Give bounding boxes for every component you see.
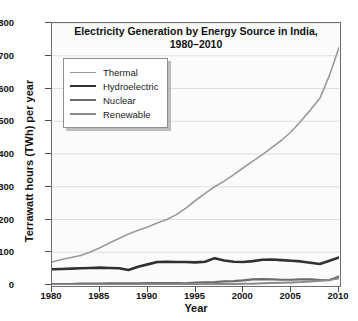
y-tick-label: 200 <box>0 213 14 224</box>
y-tick-mark <box>45 186 51 187</box>
y-tick-label: 500 <box>0 115 14 126</box>
x-tick-mark <box>290 287 291 292</box>
y-axis-label: Terrawatt hours (TWh) per year <box>23 36 35 286</box>
x-tick-mark <box>195 287 196 292</box>
y-tick-label: 400 <box>0 148 14 159</box>
legend-label: Thermal <box>103 67 138 78</box>
y-tick-mark <box>45 219 51 220</box>
y-tick-mark <box>45 284 51 285</box>
legend-item-hydroelectric: Hydroelectric <box>70 79 158 93</box>
legend-swatch-icon <box>70 113 96 115</box>
y-tick-mark <box>45 120 51 121</box>
legend-label: Nuclear <box>103 95 136 106</box>
legend-label: Renewable <box>103 109 151 120</box>
y-tick-label: 700 <box>0 49 14 60</box>
legend-label: Hydroelectric <box>103 81 158 92</box>
x-axis-label: Year <box>51 302 341 314</box>
series-line-hydroelectric <box>52 257 339 269</box>
y-tick-mark <box>45 88 51 89</box>
legend-swatch-icon <box>70 72 96 73</box>
chart-title-line-1: Electricity Generation by Energy Source … <box>60 25 332 38</box>
y-tick-label: 600 <box>0 82 14 93</box>
chart-title: Electricity Generation by Energy Source … <box>60 25 332 51</box>
legend: ThermalHydroelectricNuclearRenewable <box>63 58 168 128</box>
legend-item-renewable: Renewable <box>70 107 158 121</box>
legend-item-nuclear: Nuclear <box>70 93 158 107</box>
x-tick-mark <box>51 287 52 292</box>
legend-swatch-icon <box>70 85 96 87</box>
y-tick-label: 0 <box>0 279 14 290</box>
x-tick-mark <box>242 287 243 292</box>
y-tick-mark <box>45 22 51 23</box>
chart-figure: 0100200300400500600700800 19801985199019… <box>0 0 358 321</box>
y-tick-mark <box>45 55 51 56</box>
chart-title-line-2: 1980–2010 <box>60 38 332 51</box>
legend-item-thermal: Thermal <box>70 65 158 79</box>
x-tick-mark <box>338 287 339 292</box>
legend-swatch-icon <box>70 99 96 101</box>
y-tick-mark <box>45 251 51 252</box>
y-tick-mark <box>45 153 51 154</box>
y-tick-label: 300 <box>0 180 14 191</box>
y-tick-label: 100 <box>0 246 14 257</box>
x-tick-mark <box>99 287 100 292</box>
x-tick-label: 2010 <box>315 290 358 301</box>
y-tick-label: 800 <box>0 17 14 28</box>
x-tick-mark <box>147 287 148 292</box>
